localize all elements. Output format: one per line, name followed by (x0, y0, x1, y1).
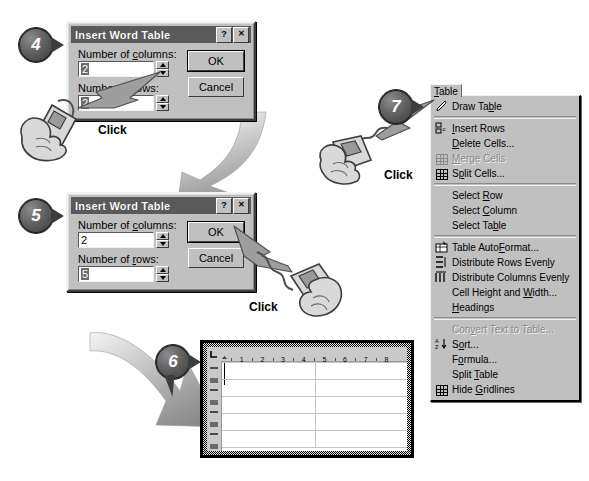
dialog-title: Insert Word Table (75, 200, 215, 212)
menu-item-split-table[interactable]: Split Table (431, 367, 579, 382)
rows-field-label: Number of rows: (78, 253, 159, 265)
badge-pointer-tail-lower (165, 374, 178, 397)
svg-text:Z: Z (435, 344, 439, 350)
ruler-minor-tick (355, 358, 356, 361)
menu-item-label: Formula... (452, 353, 497, 366)
dialog-title: Insert Word Table (75, 29, 215, 41)
menu-item-label: Distribute Rows Evenly (452, 256, 555, 269)
menu-item-label: Table AutoFormat... (452, 241, 539, 254)
menu-item-no-icon (435, 353, 449, 366)
dialog-titlebar[interactable]: Insert Word Table ? ✕ (71, 197, 251, 214)
close-icon[interactable]: ✕ (233, 198, 249, 214)
menu-item-draw-table[interactable]: Draw Table (431, 99, 579, 114)
step-badge-4: 4 (18, 27, 54, 63)
split-cells-icon (435, 167, 449, 180)
hide-gridlines-icon (435, 383, 449, 396)
step-badge-4-number: 4 (31, 35, 40, 55)
dialog-titlebar[interactable]: Insert Word Table ? ✕ (71, 26, 251, 43)
menu-item-insert-rows[interactable]: cInsert Rows (431, 121, 579, 136)
menu-item-select-row[interactable]: Select Row (431, 188, 579, 203)
columns-spinner-step5[interactable] (156, 232, 169, 248)
step-badge-6-number: 6 (168, 352, 177, 372)
spinner-down-icon[interactable] (156, 274, 169, 282)
vertical-ruler-mark (210, 367, 218, 369)
rows-input-value: 5 (81, 268, 89, 280)
menu-separator (434, 317, 576, 320)
ruler-minor-tick (273, 358, 274, 361)
menu-item-hide-gridlines[interactable]: Hide Gridlines (431, 382, 579, 397)
menu-item-no-icon (435, 368, 449, 381)
menu-item-select-table[interactable]: Select Table (431, 218, 579, 233)
vertical-ruler-mark (210, 378, 218, 383)
menu-item-distribute-columns-evenly[interactable]: Distribute Columns Evenly (431, 270, 579, 285)
step-badge-7-number: 7 (391, 97, 400, 117)
ruler-minor-tick (314, 358, 315, 361)
vertical-ruler-mark (210, 433, 218, 435)
badge-pointer-tail (411, 99, 424, 115)
vertical-ruler[interactable] (207, 361, 222, 451)
table-grid-area[interactable] (222, 362, 407, 451)
menu-separator (434, 116, 576, 119)
sort-az-icon: AZ (435, 338, 449, 351)
menu-item-label: Distribute Columns Evenly (452, 271, 569, 284)
menu-item-sort[interactable]: AZSort... (431, 337, 579, 352)
cancel-button-step4[interactable]: Cancel (188, 77, 244, 97)
menu-item-label: Hide Gridlines (452, 383, 515, 396)
text-caret (224, 363, 225, 385)
distribute-cols-icon (435, 271, 449, 284)
ruler-minor-tick (335, 358, 336, 361)
hand-holding-mouse-step5 (285, 258, 365, 328)
column-marker-icon[interactable] (290, 355, 297, 362)
menu-item-no-icon (435, 286, 449, 299)
menu-item-formula[interactable]: Formula... (431, 352, 579, 367)
help-button[interactable]: ? (216, 27, 232, 43)
badge-pointer-tail (51, 208, 64, 224)
ok-button-step4[interactable]: OK (188, 51, 244, 71)
help-button[interactable]: ? (216, 198, 232, 214)
menu-item-label: Draw Table (452, 100, 502, 113)
vertical-ruler-mark (210, 422, 218, 427)
menu-item-distribute-rows-evenly[interactable]: Distribute Rows Evenly (431, 255, 579, 270)
ruler-minor-tick (376, 358, 377, 361)
document-client-area[interactable]: 12345678 (207, 347, 407, 451)
ruler-minor-tick (252, 358, 253, 361)
vertical-ruler-mark (210, 444, 218, 449)
click-caption-step5: Click (249, 300, 278, 314)
menu-item-label: Insert Rows (452, 122, 505, 135)
menu-separator (434, 235, 576, 238)
svg-text:c: c (443, 126, 446, 132)
menu-item-select-column[interactable]: Select Column (431, 203, 579, 218)
menu-item-label: Merge Cells (452, 152, 505, 165)
menu-item-no-icon (435, 323, 449, 336)
menu-item-label: Split Cells... (452, 167, 505, 180)
vertical-ruler-mark (210, 400, 218, 405)
table-menu-dropdown[interactable]: Draw TablecInsert RowsDelete Cells...Mer… (430, 95, 581, 402)
menu-item-label: Cell Height and Width... (452, 286, 557, 299)
merge-cells-icon (435, 152, 449, 165)
hand-holding-mouse-step7 (315, 130, 395, 196)
horizontal-ruler[interactable]: 12345678 (207, 347, 407, 362)
word-document-window[interactable]: 12345678 (200, 340, 414, 458)
menu-item-no-icon (435, 204, 449, 217)
menu-item-no-icon (435, 219, 449, 232)
menu-item-label: Select Column (452, 204, 517, 217)
close-icon[interactable]: ✕ (233, 27, 249, 43)
distribute-rows-icon (435, 256, 449, 269)
menu-item-label: Sort... (452, 338, 479, 351)
autoformat-icon (435, 241, 449, 254)
menu-item-delete-cells[interactable]: Delete Cells... (431, 136, 579, 151)
menu-item-label: Select Table (452, 219, 506, 232)
menu-item-split-cells[interactable]: Split Cells... (431, 166, 579, 181)
table-row-line (222, 447, 407, 448)
ruler-minor-tick (231, 358, 232, 361)
rows-spinner-step5[interactable] (156, 266, 169, 282)
menu-item-headings[interactable]: Headings (431, 300, 579, 315)
spinner-up-icon[interactable] (156, 232, 169, 240)
menu-item-cell-height-and-width[interactable]: Cell Height and Width... (431, 285, 579, 300)
menu-item-table-autoformat[interactable]: Table AutoFormat... (431, 240, 579, 255)
columns-input-step5[interactable]: 2 (78, 232, 154, 248)
vertical-ruler-mark (210, 411, 218, 413)
spinner-down-icon[interactable] (156, 240, 169, 248)
spinner-up-icon[interactable] (156, 266, 169, 274)
rows-input-step5[interactable]: 5 (78, 266, 154, 282)
